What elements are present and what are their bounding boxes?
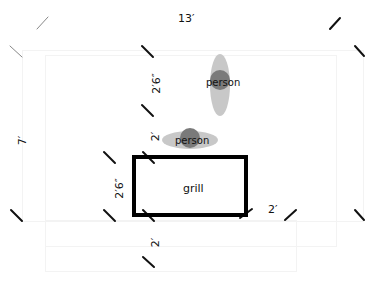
dimension-person-gap: 2′6″ — [151, 73, 162, 94]
dimension-person-to-grill: 2′ — [150, 132, 161, 142]
person-standing-label: person — [206, 78, 240, 88]
dimension-left-height: 7′ — [17, 136, 28, 146]
dimension-top-width: 13′ — [178, 13, 195, 24]
dimension-grill-to-edge: 2′ — [150, 238, 161, 248]
person-lying-label: person — [175, 136, 209, 146]
dimension-grill-depth: 2′6″ — [114, 178, 125, 199]
dimension-grill-right: 2′ — [268, 204, 278, 215]
layout-diagram: grill person person 13′ 7′ 2′6″ 2′ 2′6″ … — [0, 0, 372, 281]
grill-label: grill — [183, 182, 204, 195]
